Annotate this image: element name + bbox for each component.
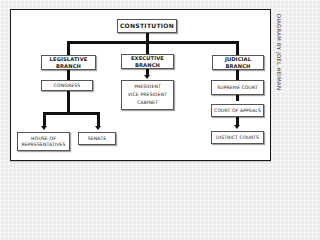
node-label-vice-president: VICE PRESIDENT bbox=[128, 91, 167, 99]
arrow-to-president bbox=[144, 75, 150, 79]
node-judicial-branch: JUDICIAL BRANCH bbox=[212, 55, 264, 70]
connector-to-house bbox=[43, 112, 46, 127]
node-label: SUPREME COURT bbox=[217, 85, 258, 91]
node-president-group: PRESIDENT VICE PRESIDENT CABINET bbox=[121, 80, 174, 110]
connector-drop-judicial bbox=[236, 41, 239, 55]
connector-supreme-appeals bbox=[236, 95, 239, 101]
connector-judicial-supreme bbox=[236, 70, 239, 80]
arrow-to-house bbox=[41, 126, 47, 130]
node-label: CONGRESS bbox=[54, 83, 81, 89]
connector-branches-bar bbox=[67, 41, 238, 44]
node-label-cabinet: CABINET bbox=[137, 99, 158, 107]
node-label-president: PRESIDENT bbox=[134, 83, 161, 91]
connector-drop-legislative bbox=[67, 41, 70, 55]
node-label: DISTRICT COURTS bbox=[216, 135, 259, 141]
diagram-credit: DIAGRAM BY JOEL HEIMAN bbox=[274, 6, 284, 98]
arrow-to-district bbox=[234, 125, 240, 129]
node-label-line2: BRANCH bbox=[135, 62, 160, 69]
node-supreme-court: SUPREME COURT bbox=[211, 80, 264, 95]
node-district-courts: DISTRICT COURTS bbox=[211, 131, 264, 144]
node-legislative-branch: LEGISLATIVE BRANCH bbox=[41, 55, 96, 70]
node-constitution: CONSTITUTION bbox=[117, 19, 177, 33]
node-label: COURT OF APPEALS bbox=[214, 108, 261, 114]
node-label: CONSTITUTION bbox=[120, 22, 174, 30]
node-senate: SENATE bbox=[78, 132, 116, 145]
connector-congress-stem bbox=[67, 91, 70, 114]
connector-to-senate bbox=[97, 112, 100, 127]
connector-legislative-congress bbox=[67, 70, 70, 80]
node-executive-branch: EXECUTIVE BRANCH bbox=[121, 54, 174, 69]
connector-drop-executive bbox=[146, 41, 149, 54]
arrow-to-senate bbox=[95, 126, 101, 130]
node-label-line2: BRANCH bbox=[56, 63, 81, 70]
node-court-of-appeals: COURT OF APPEALS bbox=[211, 104, 264, 117]
node-house-of-representatives: HOUSE OF REPRESENTATIVES bbox=[17, 132, 70, 151]
node-label-line2: BRANCH bbox=[225, 63, 250, 70]
node-congress: CONGRESS bbox=[41, 80, 93, 91]
node-label: SENATE bbox=[88, 136, 106, 142]
connector-congress-split bbox=[43, 112, 99, 115]
node-label-line2: REPRESENTATIVES bbox=[21, 142, 65, 148]
